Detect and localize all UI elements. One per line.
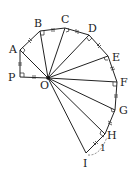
right-angle-markers <box>20 28 117 137</box>
outer-path <box>20 28 117 153</box>
label-O: O <box>40 79 49 92</box>
label-G: G <box>119 104 128 117</box>
label-H: H <box>107 129 117 142</box>
label-A: A <box>8 43 18 56</box>
label-I: I <box>83 157 87 170</box>
label-E: E <box>112 51 120 64</box>
label-C: C <box>61 13 69 26</box>
label-B: B <box>34 17 42 30</box>
label-D: D <box>88 22 97 35</box>
label-F: F <box>120 76 128 89</box>
tick-marks <box>18 28 118 145</box>
spiral-diagram: O P A B C D E F G H I 1 <box>0 0 133 174</box>
label-P: P <box>8 71 16 84</box>
unit-length-label: 1 <box>100 143 106 153</box>
